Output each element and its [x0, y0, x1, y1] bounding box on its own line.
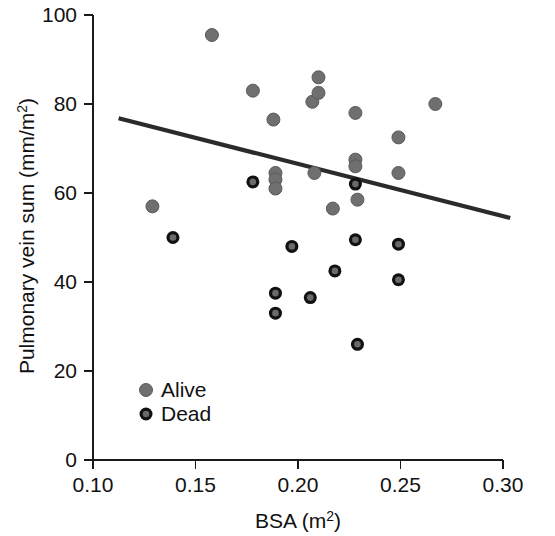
- data-point-dead-core: [307, 294, 314, 301]
- data-point-dead-core: [395, 276, 402, 283]
- data-point-alive: [349, 106, 362, 119]
- plot-canvas: 0.100.150.200.250.30020406080100 AliveDe…: [0, 0, 555, 536]
- data-point-dead-core: [332, 268, 339, 275]
- x-tick-label: 0.30: [483, 473, 524, 496]
- data-point-alive: [205, 29, 218, 42]
- legend-label: Alive: [161, 378, 207, 401]
- data-point-alive: [326, 202, 339, 215]
- y-tick-label: 80: [54, 92, 77, 115]
- y-tick-label: 100: [42, 3, 77, 26]
- data-point-alive: [312, 71, 325, 84]
- data-point-alive: [308, 166, 321, 179]
- data-point-alive: [351, 193, 364, 206]
- x-tick-label: 0.20: [278, 473, 319, 496]
- y-tick-label: 0: [65, 448, 77, 471]
- data-point-dead-core: [352, 236, 359, 243]
- legend-marker-alive: [140, 384, 153, 397]
- y-tick-label: 20: [54, 359, 77, 382]
- data-point-dead-core: [395, 241, 402, 248]
- data-point-dead-core: [250, 179, 257, 186]
- data-point-alive: [146, 200, 159, 213]
- legend-label: Dead: [161, 402, 211, 425]
- y-tick-label: 40: [54, 270, 77, 293]
- data-point-dead-core: [170, 234, 177, 241]
- legend: AliveDead: [140, 378, 212, 425]
- data-point-dead-core: [289, 243, 296, 250]
- x-tick-label: 0.25: [380, 473, 421, 496]
- data-point-alive: [267, 113, 280, 126]
- scatter-plot-figure: 0.100.150.200.250.30020406080100 AliveDe…: [0, 0, 555, 536]
- y-axis-title: Pulmonary vein sum (mm/m2): [14, 98, 38, 374]
- x-axis-title: BSA (m2): [255, 508, 341, 532]
- data-point-alive: [429, 98, 442, 111]
- data-point-dead-core: [352, 181, 359, 188]
- data-point-dead-core: [354, 341, 361, 348]
- data-point-alive: [392, 131, 405, 144]
- tick-labels: 0.100.150.200.250.30020406080100: [42, 3, 523, 496]
- data-point-dead-core: [272, 310, 279, 317]
- y-tick-label: 60: [54, 181, 77, 204]
- data-point-alive: [312, 86, 325, 99]
- legend-marker-dead-core: [143, 411, 150, 418]
- data-point-alive: [246, 84, 259, 97]
- x-tick-label: 0.10: [73, 473, 114, 496]
- data-point-alive: [269, 182, 282, 195]
- x-tick-label: 0.15: [175, 473, 216, 496]
- data-point-alive: [392, 166, 405, 179]
- data-point-dead-core: [272, 290, 279, 297]
- data-point-alive: [349, 160, 362, 173]
